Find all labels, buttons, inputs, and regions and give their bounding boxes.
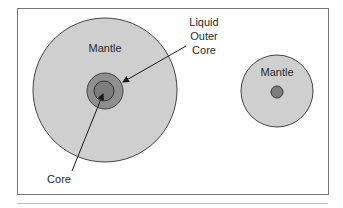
large-mantle-label: Mantle [88, 42, 121, 54]
outer-core-label-line3: Core [192, 44, 216, 56]
large-body: Mantle [33, 18, 177, 162]
core-label: Core [47, 173, 71, 185]
large-inner-core [94, 81, 114, 101]
small-mantle-label: Mantle [260, 66, 293, 78]
outer-core-label-line1: Liquid [189, 16, 218, 28]
small-body: Mantle [241, 55, 313, 127]
small-core [271, 86, 283, 98]
outer-core-label-line2: Outer [190, 30, 218, 42]
diagram-canvas: Mantle Liquid Outer Core Core Mantle [0, 0, 343, 208]
